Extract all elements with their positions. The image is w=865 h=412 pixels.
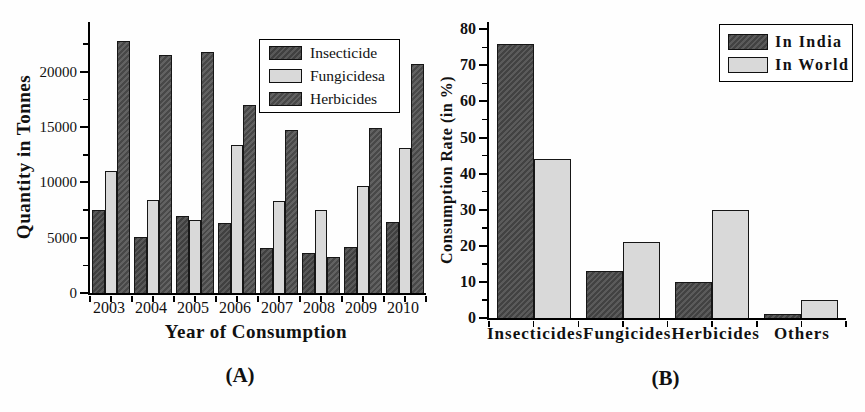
y-major-tick xyxy=(479,100,487,102)
plot-area-a: InsecticideFungicidesaHerbicides 0500010… xyxy=(88,22,426,295)
bar-group-fungicides xyxy=(578,22,667,318)
y-tick-label: 60 xyxy=(460,93,476,109)
legend-label-herbicides: Herbicides xyxy=(310,90,377,108)
plot-area-b: In IndiaIn World 01020304050607080 xyxy=(487,22,846,320)
panel-a: Quantity in Tonnes InsecticideFungicides… xyxy=(0,0,432,412)
y-minor-tick xyxy=(83,99,88,101)
bar-fungicidesa-2010 xyxy=(399,148,412,293)
x-tick-label-2009: 2009 xyxy=(340,299,382,317)
y-tick-label: 30 xyxy=(460,202,476,218)
legend-entry-herbicides: Herbicides xyxy=(269,90,390,108)
bar-insecticide-2005 xyxy=(176,216,189,293)
y-minor-tick xyxy=(83,265,88,267)
bar-group-2005 xyxy=(174,22,216,293)
legend-swatch-insecticide xyxy=(269,46,302,60)
legend-swatch-herbicides xyxy=(269,92,302,106)
legend-entry-in-india: In India xyxy=(728,33,844,51)
bar-fungicidesa-2005 xyxy=(189,220,202,293)
y-tick-label: 10000 xyxy=(40,175,78,190)
bar-herbicides-2005 xyxy=(201,52,214,293)
y-axis-title-a: Quantity in Tonnes xyxy=(13,75,35,239)
legend-b: In IndiaIn World xyxy=(719,24,853,82)
bar-herbicides-2008 xyxy=(327,257,340,294)
bar-herbicides-2006 xyxy=(243,105,256,293)
bar-group-2004 xyxy=(132,22,174,293)
x-tick-labels-b: InsecticidesFungicidesHerbicidesOthers xyxy=(487,324,844,344)
y-minor-tick xyxy=(482,227,487,229)
legend-swatch-in-india xyxy=(728,34,768,50)
legend-label-in-world: In World xyxy=(775,56,849,74)
y-minor-tick xyxy=(482,155,487,157)
y-minor-tick xyxy=(482,47,487,49)
legend-entry-fungicidesa: Fungicidesa xyxy=(269,67,390,85)
bar-insecticide-2003 xyxy=(92,210,105,293)
bar-insecticide-2006 xyxy=(218,223,231,293)
legend-label-fungicidesa: Fungicidesa xyxy=(310,67,385,85)
bar-in-india-insecticides xyxy=(497,44,534,318)
x-tick-label-2005: 2005 xyxy=(172,299,214,317)
y-major-tick xyxy=(479,317,487,319)
y-minor-tick xyxy=(482,263,487,265)
x-tick-label-2003: 2003 xyxy=(88,299,130,317)
y-axis-title-b: Consumption Rate (in %) xyxy=(438,76,456,264)
bar-herbicides-2003 xyxy=(117,41,130,293)
y-minor-tick xyxy=(83,154,88,156)
y-tick-label: 15000 xyxy=(40,120,78,135)
y-tick-label: 0 xyxy=(70,286,78,301)
x-tick-label-2010: 2010 xyxy=(382,299,424,317)
x-tick-label-herbicides: Herbicides xyxy=(671,324,759,344)
y-major-tick xyxy=(479,281,487,283)
bar-fungicidesa-2003 xyxy=(105,171,118,293)
bar-herbicides-2009 xyxy=(369,128,382,293)
bar-group-2003 xyxy=(90,22,132,293)
y-minor-tick xyxy=(83,43,88,45)
x-tick-labels-a: 20032004200520062007200820092010 xyxy=(88,299,424,317)
y-major-tick xyxy=(479,245,487,247)
bar-fungicidesa-2007 xyxy=(273,201,286,293)
bar-in-world-insecticides xyxy=(534,159,571,318)
y-major-tick xyxy=(479,28,487,30)
x-tick-label-2004: 2004 xyxy=(130,299,172,317)
y-major-tick xyxy=(80,126,88,128)
x-tick xyxy=(425,296,427,302)
x-tick-label-others: Others xyxy=(760,324,844,344)
y-minor-tick xyxy=(482,83,487,85)
bar-in-world-herbicides xyxy=(712,210,749,318)
bar-herbicides-2007 xyxy=(285,130,298,293)
legend-label-in-india: In India xyxy=(775,33,843,51)
y-major-tick xyxy=(479,173,487,175)
y-major-tick xyxy=(80,71,88,73)
panel-label-a: (A) xyxy=(40,363,440,388)
bar-fungicidesa-2009 xyxy=(357,186,370,293)
x-tick-label-fungicides: Fungicides xyxy=(583,324,671,344)
y-tick-label: 10 xyxy=(460,274,476,290)
y-tick-label: 20 xyxy=(460,238,476,254)
bar-insecticide-2007 xyxy=(260,248,273,293)
bar-insecticide-2008 xyxy=(302,253,315,293)
bar-herbicides-2004 xyxy=(159,55,172,293)
x-tick xyxy=(845,321,847,327)
bar-in-world-fungicides xyxy=(623,242,660,318)
bar-in-india-herbicides xyxy=(675,282,712,318)
y-tick-label: 5000 xyxy=(47,230,77,245)
bar-insecticide-2009 xyxy=(344,247,357,293)
bar-fungicidesa-2004 xyxy=(147,200,160,293)
x-tick-label-2006: 2006 xyxy=(214,299,256,317)
bar-in-world-others xyxy=(801,300,838,318)
x-tick-label-2007: 2007 xyxy=(256,299,298,317)
bar-fungicidesa-2006 xyxy=(231,145,244,293)
y-tick-label: 40 xyxy=(460,166,476,182)
legend-label-insecticide: Insecticide xyxy=(310,44,377,62)
legend-entry-insecticide: Insecticide xyxy=(269,44,390,62)
panel-label-b: (B) xyxy=(487,366,844,391)
bar-fungicidesa-2008 xyxy=(315,210,328,293)
bar-in-india-others xyxy=(764,314,801,318)
bar-insecticide-2010 xyxy=(386,222,399,293)
legend-swatch-fungicidesa xyxy=(269,69,302,83)
y-tick-label: 70 xyxy=(460,57,476,73)
y-tick-label: 0 xyxy=(468,310,476,326)
bar-group-insecticides xyxy=(489,22,578,318)
legend-a: InsecticideFungicidesaHerbicides xyxy=(259,39,400,113)
bar-group-2006 xyxy=(216,22,258,293)
y-tick-label: 50 xyxy=(460,130,476,146)
